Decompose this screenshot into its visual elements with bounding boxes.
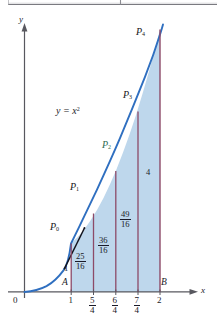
fraction-denominator: 4 bbox=[134, 306, 141, 315]
point-subscript: 3 bbox=[129, 94, 132, 100]
fraction-denominator: 4 bbox=[89, 306, 96, 315]
height-label-1: 25 16 bbox=[75, 252, 86, 271]
fraction: 5 4 bbox=[89, 296, 96, 316]
interval-start-label-a: A bbox=[62, 278, 68, 288]
tick-whole: 1 bbox=[69, 295, 74, 305]
fraction-denominator: 16 bbox=[98, 246, 109, 255]
point-subscript: 0 bbox=[56, 226, 59, 232]
x-tick-label-0: 1 bbox=[69, 296, 74, 305]
height-label-0: 1 bbox=[64, 264, 68, 273]
x-tick-label-4: 2 bbox=[157, 296, 162, 305]
fraction: 6 4 bbox=[112, 296, 119, 316]
point-subscript: 1 bbox=[76, 186, 79, 192]
fraction: 36 16 bbox=[98, 236, 109, 255]
curve-equation-label: y = x2 bbox=[56, 106, 80, 116]
fraction-denominator: 16 bbox=[120, 220, 131, 229]
fraction-denominator: 16 bbox=[75, 262, 86, 271]
point-label-p0: P0 bbox=[50, 222, 59, 232]
y-axis bbox=[22, 23, 28, 298]
x-tick-label-2: 6 4 bbox=[112, 296, 119, 316]
x-tick-label-1: 5 4 bbox=[89, 296, 96, 316]
table-rule-top bbox=[8, 0, 217, 5]
height-label-2: 36 16 bbox=[98, 236, 109, 255]
tick-whole: 2 bbox=[157, 295, 162, 305]
fraction: 7 4 bbox=[134, 296, 141, 316]
curve-equation-text: y = x bbox=[56, 105, 77, 116]
x-axis-label: x bbox=[201, 286, 205, 295]
y-axis-label: y bbox=[19, 15, 23, 24]
x-tick-label-3: 7 4 bbox=[134, 296, 141, 316]
fraction: 25 16 bbox=[75, 252, 86, 271]
curve-equation-exponent: 2 bbox=[77, 106, 80, 112]
point-subscript: 2 bbox=[108, 144, 111, 150]
point-label-p4: P4 bbox=[136, 27, 145, 37]
origin-label: 0 bbox=[13, 296, 18, 305]
fraction: 49 16 bbox=[120, 210, 131, 229]
height-whole: 4 bbox=[146, 167, 150, 177]
interval-end-label-b: B bbox=[161, 278, 167, 288]
fraction-denominator: 4 bbox=[112, 306, 119, 315]
height-whole: 1 bbox=[64, 263, 68, 273]
point-subscript: 4 bbox=[142, 31, 145, 37]
point-label-p3: P3 bbox=[123, 90, 132, 100]
area-under-parabola-figure bbox=[0, 0, 217, 325]
point-label-p2: P2 bbox=[102, 140, 111, 150]
point-label-p1: P1 bbox=[70, 182, 79, 192]
height-label-3: 49 16 bbox=[120, 210, 131, 229]
height-label-4: 4 bbox=[146, 168, 150, 177]
